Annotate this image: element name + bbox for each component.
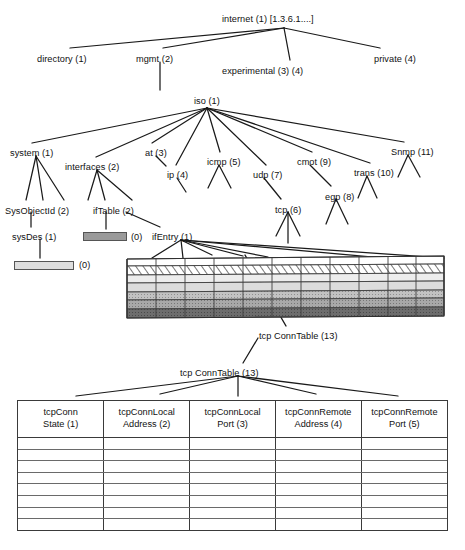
header-line-2: Port (3) [217, 419, 248, 429]
header-line-1: tcpConnRemote [285, 407, 351, 417]
table-cell[interactable] [190, 484, 276, 496]
header-line-1: tcpConn [44, 407, 78, 417]
table-cell[interactable] [104, 507, 190, 519]
table-row[interactable] [18, 519, 447, 530]
sysdes-zero-label: (0) [79, 260, 90, 271]
table-cell[interactable] [361, 507, 447, 519]
table-row[interactable] [18, 449, 447, 461]
table-cell[interactable] [18, 472, 104, 484]
table-row[interactable] [18, 495, 447, 507]
node-interfaces[interactable]: interfaces (2) [65, 162, 119, 173]
column-header-tcpconnremoteport[interactable]: tcpConnRemote Port (5) [361, 401, 447, 438]
node-ifentry[interactable]: ifEntry (1) [152, 232, 192, 243]
table-cell[interactable] [275, 472, 361, 484]
tcpconntable[interactable]: tcpConn State (1) tcpConnLocal Address (… [17, 400, 448, 531]
table-cell[interactable] [275, 495, 361, 507]
node-private[interactable]: private (4) [374, 54, 416, 65]
table-cell[interactable] [275, 519, 361, 530]
header-line-2: Address (2) [123, 419, 171, 429]
column-header-tcpconnlocalport[interactable]: tcpConnLocal Port (3) [190, 401, 276, 438]
table-cell[interactable] [104, 449, 190, 461]
table-cell[interactable] [190, 495, 276, 507]
node-icmp[interactable]: icmp (5) [207, 157, 241, 168]
table-cell[interactable] [18, 461, 104, 473]
node-iftable[interactable]: ifTable (2) [93, 206, 134, 217]
table-cell[interactable] [275, 438, 361, 450]
column-header-tcpconnremoteaddress[interactable]: tcpConnRemote Address (4) [275, 401, 361, 438]
table-cell[interactable] [361, 438, 447, 450]
iftable-instance-box [83, 232, 127, 241]
node-at[interactable]: at (3) [145, 148, 167, 159]
node-tcp[interactable]: tcp (6) [275, 205, 301, 216]
table-cell[interactable] [190, 519, 276, 530]
table-cell[interactable] [18, 438, 104, 450]
table-cell[interactable] [104, 438, 190, 450]
table-cell[interactable] [18, 507, 104, 519]
node-snmp[interactable]: Snmp (11) [391, 147, 434, 158]
node-egp[interactable]: egp (8) [325, 192, 354, 203]
table-cell[interactable] [361, 495, 447, 507]
table-cell[interactable] [361, 461, 447, 473]
table-cell[interactable] [18, 449, 104, 461]
header-line-1: tcpConnLocal [119, 407, 175, 417]
node-directory[interactable]: directory (1) [37, 54, 87, 65]
table-row[interactable] [18, 461, 447, 473]
column-header-tcpconnstate[interactable]: tcpConn State (1) [18, 401, 104, 438]
table-cell[interactable] [104, 495, 190, 507]
node-system[interactable]: system (1) [10, 148, 53, 159]
table-cell[interactable] [190, 438, 276, 450]
sysdes-instance-box [14, 261, 74, 270]
table-row[interactable] [18, 472, 447, 484]
iftable-zero-label: (0) [131, 232, 142, 243]
ifentry-grid [127, 256, 444, 318]
node-tcpconntable-lower[interactable]: tcp ConnTable (13) [180, 368, 259, 379]
table-cell[interactable] [104, 519, 190, 530]
node-sysobjectid[interactable]: SysObjectId (2) [5, 206, 69, 217]
table-cell[interactable] [361, 519, 447, 530]
node-tcpconntable-upper[interactable]: tcp ConnTable (13) [259, 331, 338, 342]
table-body [18, 438, 447, 530]
table-cell[interactable] [190, 461, 276, 473]
node-mgmt[interactable]: mgmt (2) [136, 54, 173, 65]
table-cell[interactable] [190, 449, 276, 461]
table-cell[interactable] [18, 519, 104, 530]
table-cell[interactable] [18, 484, 104, 496]
table-cell[interactable] [190, 507, 276, 519]
table-cell[interactable] [361, 484, 447, 496]
node-cmot[interactable]: cmot (9) [297, 157, 331, 168]
table-row[interactable] [18, 484, 447, 496]
table-cell[interactable] [104, 472, 190, 484]
header-line-2: Address (4) [295, 419, 343, 429]
header-line-1: tcpConnLocal [204, 407, 260, 417]
header-line-2: State (1) [43, 419, 78, 429]
mib-tree-figure: internet (1) [1.3.6.1....] directory (1)… [0, 0, 465, 550]
table-cell[interactable] [104, 461, 190, 473]
table-cell[interactable] [275, 449, 361, 461]
table-cell[interactable] [275, 484, 361, 496]
table-row[interactable] [18, 507, 447, 519]
table-cell[interactable] [361, 449, 447, 461]
column-header-tcpconnlocaladdress[interactable]: tcpConnLocal Address (2) [104, 401, 190, 438]
node-udp[interactable]: udp (7) [253, 170, 282, 181]
table-cell[interactable] [104, 484, 190, 496]
table-cell[interactable] [361, 472, 447, 484]
node-sysdes[interactable]: sysDes (1) [12, 232, 56, 243]
table-cell[interactable] [275, 461, 361, 473]
table-cell[interactable] [275, 507, 361, 519]
node-ip[interactable]: ip (4) [167, 170, 188, 181]
node-trans[interactable]: trans (10) [354, 168, 394, 179]
node-internet[interactable]: internet (1) [1.3.6.1....] [222, 14, 314, 25]
header-line-1: tcpConnRemote [371, 407, 437, 417]
node-experimental[interactable]: experimental (3) (4) [222, 66, 303, 77]
table-header-row: tcpConn State (1) tcpConnLocal Address (… [18, 401, 447, 438]
table-cell[interactable] [18, 495, 104, 507]
table-cell[interactable] [190, 472, 276, 484]
table-row[interactable] [18, 438, 447, 450]
header-line-2: Port (5) [389, 419, 420, 429]
node-iso[interactable]: iso (1) [194, 96, 220, 107]
